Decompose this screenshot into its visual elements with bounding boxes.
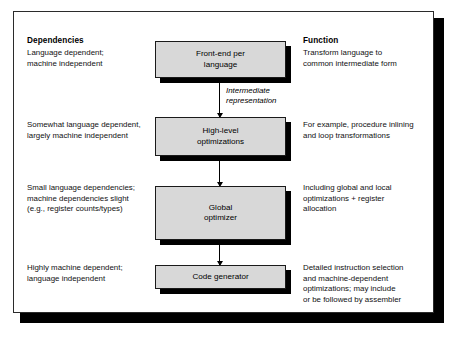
stage-high-level-optimizations: High-level optimizations <box>155 117 286 156</box>
stage-label: Global optimizer <box>204 203 237 224</box>
stage-code-generator: Code generator <box>155 265 286 289</box>
stage-global-optimizer: Global optimizer <box>155 186 286 240</box>
function-note-code-generator: Detailed instruction selection and machi… <box>303 263 443 305</box>
intermediate-representation-label: Intermediate representation <box>226 86 276 107</box>
arrow-global-optimizer-to-code-generator <box>219 245 220 265</box>
arrow-high-level-to-global-optimizer <box>219 161 220 186</box>
stage-label: Code generator <box>192 272 248 282</box>
compiler-phases-diagram: Dependencies Function Language dependent… <box>0 0 449 341</box>
function-note-high-level-optimizations: For example, procedure inlining and loop… <box>303 120 443 141</box>
function-column-heading: Function <box>303 36 338 45</box>
stage-label: High-level optimizations <box>197 126 244 147</box>
stage-box: Global optimizer <box>155 186 286 240</box>
stage-label: Front-end per language <box>196 49 245 70</box>
arrow-front-end-to-high-level <box>219 83 220 117</box>
function-note-front-end: Transform language to common intermediat… <box>303 48 443 69</box>
stage-front-end-per-language: Front-end per language <box>155 41 286 78</box>
stage-box: High-level optimizations <box>155 117 286 156</box>
stage-box: Front-end per language <box>155 41 286 78</box>
dependencies-column-heading: Dependencies <box>27 36 84 45</box>
stage-box: Code generator <box>155 265 286 289</box>
function-note-global-optimizer: Including global and local optimizations… <box>303 183 443 215</box>
